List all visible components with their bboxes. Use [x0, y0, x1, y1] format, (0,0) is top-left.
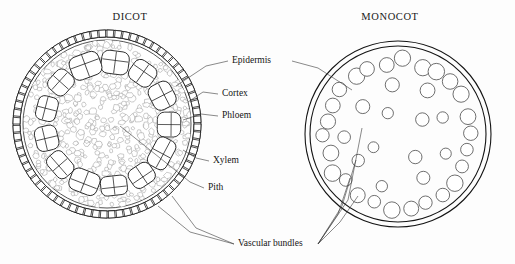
- dicot-epidermis-cell: [83, 32, 91, 40]
- monocot-vascular-bundle: [368, 195, 381, 208]
- monocot-vascular-bundle: [394, 50, 410, 66]
- panel-title-dicot: DICOT: [112, 11, 147, 22]
- dicot-epidermis-cell: [191, 139, 199, 147]
- stem-cross-section-figure: EpidermisCortexPhloemXylemPithVascular b…: [0, 0, 515, 264]
- monocot-vascular-bundle: [350, 188, 365, 203]
- dicot-epidermis-cell: [14, 101, 22, 109]
- monocot-vascular-bundle: [464, 126, 478, 140]
- monocot-vascular-bundle: [461, 143, 474, 156]
- dicot-epidermis-cell: [122, 31, 130, 39]
- monocot-vascular-bundle: [419, 196, 432, 209]
- monocot-vascular-bundle: [460, 109, 476, 125]
- dicot-epidermis-cell: [115, 30, 122, 38]
- label-vascular-bundles: Vascular bundles: [238, 238, 303, 248]
- monocot-vascular-bundle: [323, 145, 339, 161]
- dicot-epidermis-cell: [84, 208, 92, 216]
- dicot-vascular-bundle: [100, 174, 128, 196]
- dicot-vascular-bundle: [100, 49, 130, 75]
- monocot-vascular-bundle: [324, 165, 341, 182]
- monocot-vascular-bundle: [453, 86, 469, 102]
- monocot-vascular-bundle: [320, 114, 335, 129]
- monocot-vascular-bundle: [384, 202, 400, 218]
- dicot-epidermis-cell: [13, 125, 20, 132]
- monocot-vascular-bundle: [379, 58, 394, 73]
- monocot-vascular-bundle: [325, 98, 340, 113]
- dicot-epidermis-cell: [194, 116, 201, 123]
- monocot-vascular-bundle: [442, 74, 458, 90]
- dicot-epidermis-cell: [123, 208, 131, 216]
- monocot-vascular-bundle: [316, 129, 329, 142]
- monocot-vascular-bundle: [420, 83, 435, 98]
- dicot-epidermis-cell: [91, 31, 98, 39]
- dicot-epidermis-cell: [13, 109, 21, 116]
- monocot-vascular-bundle: [417, 171, 430, 184]
- dicot-vascular-bundle: [157, 112, 181, 137]
- label-phloem: Phloem: [222, 110, 252, 120]
- monocot-vascular-bundle: [360, 62, 375, 77]
- monocot-vascular-bundle: [404, 201, 419, 216]
- dicot-epidermis-cell: [191, 100, 199, 108]
- monocot-vascular-bundle: [376, 181, 387, 192]
- panel-title-monocot: MONOCOT: [361, 11, 418, 22]
- label-pith: Pith: [208, 182, 224, 192]
- dicot-epidermis-cell: [100, 211, 107, 218]
- monocot-vascular-bundle: [352, 154, 364, 166]
- dicot-stem-cross-section: [13, 30, 201, 218]
- dicot-epidermis-cell: [14, 133, 22, 140]
- dicot-epidermis-cell: [15, 140, 23, 148]
- monocot-vascular-bundle: [416, 113, 429, 126]
- dicot-epidermis-cell: [92, 210, 99, 218]
- monocot-vascular-bundle: [385, 78, 399, 92]
- monocot-vascular-bundle: [447, 175, 463, 191]
- monocot-vascular-bundle: [332, 82, 346, 96]
- dicot-epidermis-cell: [194, 124, 201, 131]
- monocot-vascular-bundle: [456, 160, 469, 173]
- monocot-vascular-bundle: [437, 112, 448, 123]
- monocot-vascular-bundle: [338, 131, 351, 144]
- dicot-epidermis-cell: [99, 30, 106, 37]
- monocot-vascular-bundle: [436, 188, 450, 202]
- monocot-vascular-bundle: [356, 100, 370, 114]
- label-epidermis: Epidermis: [232, 55, 271, 65]
- label-cortex: Cortex: [222, 88, 248, 98]
- dicot-epidermis-cell: [107, 30, 114, 37]
- dicot-epidermis-cell: [108, 211, 115, 218]
- monocot-vascular-bundle: [440, 148, 451, 159]
- dicot-epidermis-cell: [193, 132, 201, 139]
- dicot-epidermis-cell: [116, 210, 123, 218]
- monocot-vascular-bundle: [382, 108, 393, 119]
- dicot-epidermis-cell: [13, 117, 20, 124]
- monocot-vascular-bundle: [368, 142, 379, 153]
- label-xylem: Xylem: [213, 155, 239, 165]
- dicot-epidermis-cell: [193, 108, 201, 115]
- monocot-vascular-bundle: [428, 63, 445, 80]
- diagram-page: EpidermisCortexPhloemXylemPithVascular b…: [0, 0, 515, 264]
- monocot-vascular-bundle: [409, 150, 422, 163]
